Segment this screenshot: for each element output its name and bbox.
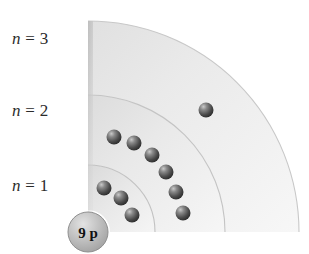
shell-label-n3-eq: = bbox=[21, 29, 40, 48]
shell-label-n1-eq: = bbox=[21, 176, 40, 195]
shell-label-n3-value: 3 bbox=[40, 29, 49, 48]
shell-label-n2-var: n bbox=[12, 101, 21, 120]
electron bbox=[127, 136, 142, 151]
shell-label-n1-var: n bbox=[12, 176, 21, 195]
electron bbox=[97, 181, 112, 196]
electron bbox=[145, 148, 160, 163]
bohr-model-svg: n = 3 n = 2 n = 1 9 p bbox=[0, 0, 309, 254]
electrons-shell-3 bbox=[199, 103, 214, 118]
electron bbox=[169, 185, 184, 200]
shell-label-n2-value: 2 bbox=[40, 101, 49, 120]
nucleus-label: 9 p bbox=[78, 225, 98, 241]
nucleus: 9 p bbox=[68, 212, 108, 252]
shell-label-n1-value: 1 bbox=[40, 176, 49, 195]
electron bbox=[176, 206, 191, 221]
electron bbox=[114, 191, 129, 206]
shell-label-n3: n = 3 bbox=[12, 29, 49, 48]
electron bbox=[107, 130, 122, 145]
atom-diagram: n = 3 n = 2 n = 1 9 p bbox=[0, 0, 309, 254]
electron bbox=[159, 165, 174, 180]
shell-label-n3-var: n bbox=[12, 29, 21, 48]
electron bbox=[199, 103, 214, 118]
shell-label-n2-eq: = bbox=[21, 101, 40, 120]
left-edge-shading bbox=[88, 21, 93, 232]
shell-label-n1: n = 1 bbox=[12, 176, 49, 195]
shell-label-n2: n = 2 bbox=[12, 101, 49, 120]
electron bbox=[125, 208, 140, 223]
